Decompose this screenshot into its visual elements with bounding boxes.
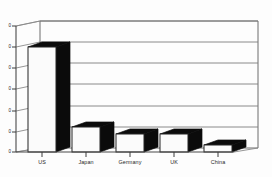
y-tick-label-50: 0 [8,44,11,49]
y-tick-label-0: 0 [8,149,11,154]
bar-germany[interactable] [116,129,158,152]
bar-japan-side [100,122,114,152]
bar-uk-front [160,134,188,152]
bar-japan[interactable] [72,122,114,152]
y-tick-label-40: 0 [8,65,11,70]
grid-depth-60 [16,21,40,26]
x-axis-labels: US Japan Germany UK China [38,159,225,165]
y-tick-label-10: 0 [8,129,11,134]
bar-japan-front [72,127,100,152]
y-tick-label-30: 0 [8,86,11,91]
x-label-china: China [211,159,226,165]
x-label-us: US [38,159,46,165]
x-label-uk: UK [170,159,178,165]
bar-chart-figure: 0 0 0 0 0 0 0 US Japan Germany UK China [0,0,272,177]
x-label-germany: Germany [119,159,142,165]
bar-us[interactable] [28,42,70,152]
x-label-japan: Japan [78,159,93,165]
y-tick-label-60: 0 [8,23,11,28]
bar-us-side [56,42,70,152]
y-tick-label-20: 0 [8,108,11,113]
bar-germany-front [116,134,144,152]
bar-china-front [204,145,232,152]
chart-canvas: 0 0 0 0 0 0 0 US Japan Germany UK China [0,0,272,177]
y-axis-ticks: 0 0 0 0 0 0 0 [8,23,16,154]
x-axis-ticks [42,152,218,157]
bar-us-front [28,47,56,152]
bar-uk[interactable] [160,129,202,152]
